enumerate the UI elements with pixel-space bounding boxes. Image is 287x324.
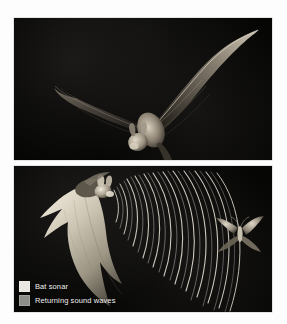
moth-wing-lower-right xyxy=(241,236,261,252)
legend-item-returning-sound-waves: Returning sound waves xyxy=(19,295,115,306)
legend-label-bat-sonar: Bat sonar xyxy=(35,282,68,291)
bat-left-wing xyxy=(54,84,142,132)
bat-in-flight-illustration xyxy=(14,18,272,160)
legend-swatch-returning-sound-waves xyxy=(19,295,30,306)
bat-tail-membrane xyxy=(156,142,172,160)
moth-body xyxy=(237,226,242,242)
legend-item-bat-sonar: Bat sonar xyxy=(19,281,115,292)
legend: Bat sonar Returning sound waves xyxy=(19,278,115,306)
bat-ear-right xyxy=(106,175,112,187)
moth-wing-upper-right xyxy=(242,216,264,235)
bat-right-wing xyxy=(154,30,259,134)
legend-label-returning-sound-waves: Returning sound waves xyxy=(35,296,115,305)
legend-swatch-bat-sonar xyxy=(19,281,30,292)
panel-echolocation-diagram: Bat sonar Returning sound waves xyxy=(14,166,272,312)
bat-snout xyxy=(130,143,139,150)
panel-bat-in-flight xyxy=(14,18,272,160)
bat-open-mouth xyxy=(106,191,114,197)
figure-root: Bat sonar Returning sound waves xyxy=(0,0,287,324)
